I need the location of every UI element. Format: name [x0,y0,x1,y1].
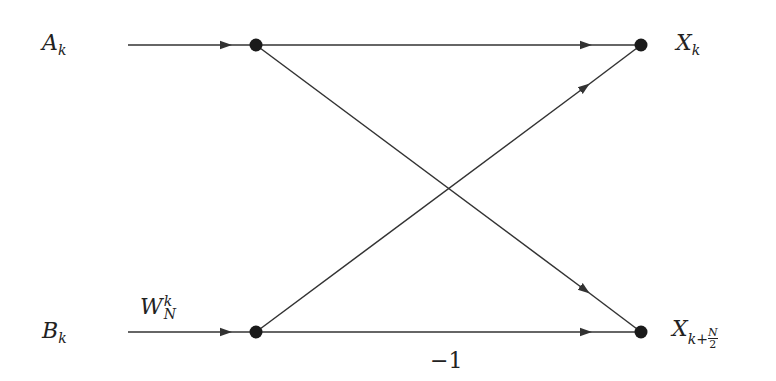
multiplier-label: −1 [430,348,462,373]
edge-b-to-xk [256,87,585,332]
node-b [250,326,263,339]
output-label-xkn2: Xk+N2 [672,316,718,342]
output-label-xk: Xk [676,30,700,58]
node-a [250,39,263,52]
twiddle-label: WkN [140,294,176,321]
edge-a-to-xkn2 [256,45,585,290]
node-xkn2 [635,326,648,339]
input-label-b: Bk [42,318,67,346]
input-label-a: Ak [42,30,66,58]
butterfly-diagram [0,0,776,381]
node-xk [635,39,648,52]
